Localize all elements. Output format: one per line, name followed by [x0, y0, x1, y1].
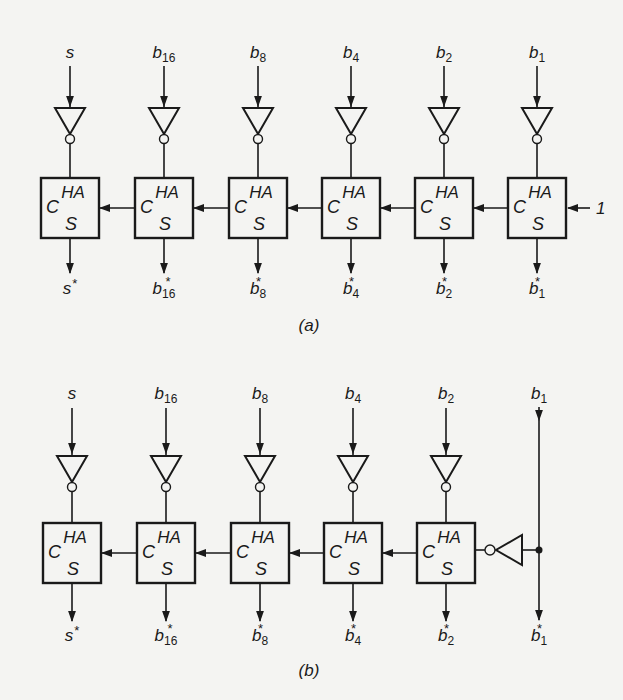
carry-port-label: C	[420, 197, 434, 217]
carry-port-label: C	[48, 542, 62, 562]
inverter-icon	[149, 108, 179, 134]
inversion-bubble-icon	[440, 135, 449, 144]
carry-in-label: 1	[596, 199, 605, 218]
output-label: s*	[65, 623, 80, 645]
input-label: b1	[529, 43, 545, 65]
inversion-bubble-icon	[254, 135, 263, 144]
carry-port-label: C	[142, 542, 156, 562]
inverter-icon	[496, 535, 522, 565]
output-label: b2*	[436, 274, 452, 301]
inversion-bubble-icon	[160, 135, 169, 144]
half-adder-box: HACS	[41, 178, 99, 238]
inverter-icon	[522, 108, 552, 134]
stage-b-0: sHACSs*	[43, 384, 101, 645]
stage-b-1: b16HACSb16*	[102, 384, 195, 648]
inverter-icon	[55, 108, 85, 134]
carry-port-label: C	[422, 542, 436, 562]
output-label: b8*	[250, 274, 266, 301]
input-label: b2	[438, 384, 454, 406]
inversion-bubble-icon	[485, 545, 495, 555]
panel-b-caption: (b)	[299, 661, 320, 680]
inverter-icon	[338, 456, 368, 482]
inversion-bubble-icon	[66, 135, 75, 144]
input-label: b4	[345, 384, 361, 406]
half-adder-box: HACS	[508, 178, 566, 238]
sum-port-label: S	[348, 559, 360, 579]
carry-port-label: C	[140, 197, 154, 217]
output-label: s*	[63, 276, 78, 298]
ha-label: HA	[342, 183, 366, 202]
sum-port-label: S	[67, 559, 79, 579]
ha-label: HA	[157, 528, 181, 547]
half-adder-box: HACS	[417, 523, 475, 583]
inversion-bubble-icon	[347, 135, 356, 144]
ha-label: HA	[155, 183, 179, 202]
carry-port-label: C	[327, 197, 341, 217]
output-label: b8*	[252, 621, 268, 648]
ha-label: HA	[437, 528, 461, 547]
inversion-bubble-icon	[256, 483, 265, 492]
stage-a-5: b1HACSb1*	[474, 43, 566, 301]
input-label: b16	[153, 43, 176, 65]
carry-port-label: C	[236, 542, 250, 562]
output-label: b16*	[155, 621, 178, 648]
inverter-icon	[431, 456, 461, 482]
stage-a-3: b4HACSb4*	[288, 43, 380, 301]
inversion-bubble-icon	[162, 483, 171, 492]
inverter-icon	[243, 108, 273, 134]
output-label: b2*	[438, 621, 454, 648]
sum-port-label: S	[439, 214, 451, 234]
ha-label: HA	[528, 183, 552, 202]
inverter-icon	[336, 108, 366, 134]
stage-a-0: sHACSs*	[41, 43, 99, 298]
inversion-bubble-icon	[533, 135, 542, 144]
carry-port-label: C	[329, 542, 343, 562]
half-adder-box: HACS	[231, 523, 289, 583]
half-adder-box: HACS	[137, 523, 195, 583]
stage-b-4: b2HACSb2*	[383, 384, 475, 648]
stage-b-3: b4HACSb4*	[290, 384, 382, 648]
input-label: s	[66, 43, 75, 62]
ha-label: HA	[63, 528, 87, 547]
sum-port-label: S	[159, 214, 171, 234]
ha-label: HA	[435, 183, 459, 202]
panel-a: sHACSs*b16HACSb16*b8HACSb8*b4HACSb4*b2HA…	[41, 43, 605, 335]
output-label: b1*	[529, 274, 545, 301]
ha-label: HA	[344, 528, 368, 547]
ha-label: HA	[61, 183, 85, 202]
input-label: b8	[252, 384, 268, 406]
ha-label: HA	[249, 183, 273, 202]
carry-port-label: C	[234, 197, 248, 217]
input-label: s	[68, 384, 77, 403]
sum-port-label: S	[532, 214, 544, 234]
half-adder-box: HACS	[324, 523, 382, 583]
half-adder-box: HACS	[135, 178, 193, 238]
half-adder-box: HACS	[322, 178, 380, 238]
sum-port-label: S	[65, 214, 77, 234]
inversion-bubble-icon	[442, 483, 451, 492]
panel-b: sHACSs*b16HACSb16*b8HACSb8*b4HACSb4*b2HA…	[43, 384, 547, 680]
input-label: b2	[436, 43, 452, 65]
inverter-icon	[429, 108, 459, 134]
half-adder-box: HACS	[43, 523, 101, 583]
inverter-icon	[151, 456, 181, 482]
half-adder-incrementer-diagram: sHACSs*b16HACSb16*b8HACSb8*b4HACSb4*b2HA…	[0, 0, 623, 700]
stage-a-4: b2HACSb2*	[381, 43, 473, 301]
stage-a-2: b8HACSb8*	[194, 43, 287, 301]
stage-a-1: b16HACSb16*	[100, 43, 193, 301]
input-label: b4	[343, 43, 359, 65]
input-label: b8	[250, 43, 266, 65]
output-label: b1*	[531, 621, 547, 648]
carry-port-label: C	[46, 197, 60, 217]
half-adder-box: HACS	[415, 178, 473, 238]
inverter-icon	[245, 456, 275, 482]
panel-a-caption: (a)	[299, 316, 320, 335]
output-label: b16*	[153, 274, 176, 301]
input-label: b1	[531, 384, 547, 406]
output-label: b4*	[343, 274, 359, 301]
sum-port-label: S	[161, 559, 173, 579]
b1-passthrough: b1b1*	[476, 384, 547, 648]
inverter-icon	[57, 456, 87, 482]
output-label: b4*	[345, 621, 361, 648]
input-label: b16	[155, 384, 178, 406]
